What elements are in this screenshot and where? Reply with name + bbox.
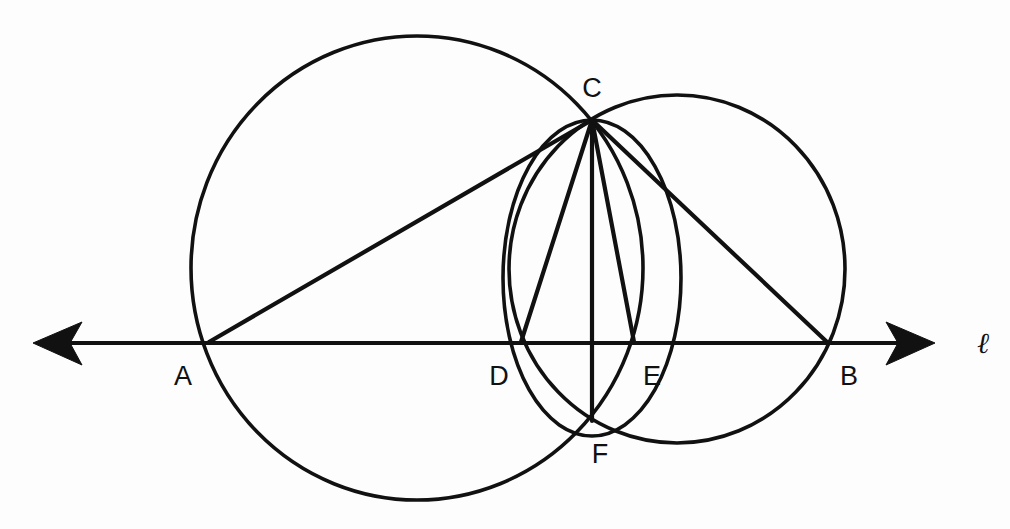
- point-label-E: E: [643, 361, 661, 391]
- line-label-l: ℓ: [977, 327, 989, 359]
- point-label-A: A: [174, 361, 192, 391]
- geometry-canvas: A D E B C F ℓ: [0, 0, 1010, 529]
- big-circle: [191, 36, 643, 500]
- segments-group: [209, 120, 827, 421]
- geometry-diagram: A D E B C F ℓ: [0, 0, 1010, 529]
- line-l-group: [33, 322, 935, 365]
- right-circle: [509, 95, 845, 443]
- point-label-B: B: [840, 361, 858, 391]
- segment-A-C: [209, 120, 592, 342]
- point-label-F: F: [592, 439, 609, 469]
- point-labels-group: A D E B C F ℓ: [174, 73, 989, 469]
- point-label-C: C: [582, 73, 602, 103]
- point-label-D: D: [489, 361, 509, 391]
